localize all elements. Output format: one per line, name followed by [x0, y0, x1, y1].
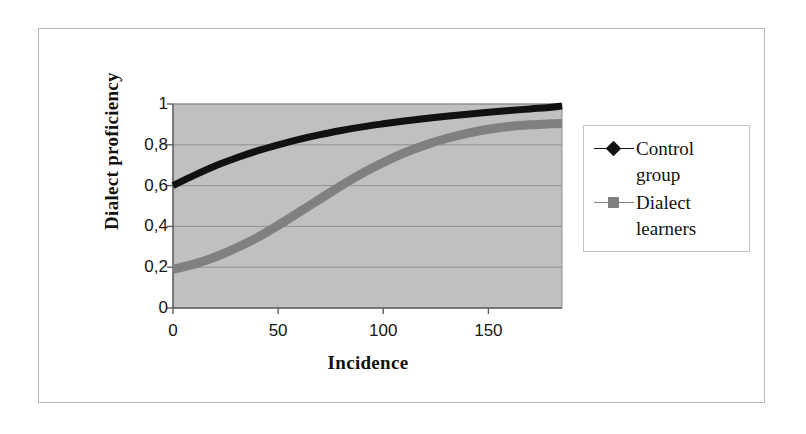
diamond-marker-icon: [606, 141, 622, 157]
legend-key-control-group: [592, 139, 636, 159]
square-marker-icon: [608, 197, 619, 208]
legend-label-dialect-learners: Dialectlearners: [636, 190, 696, 241]
x-tick-label: 50: [248, 322, 308, 339]
legend-entry-control-group[interactable]: Controlgroup: [592, 136, 744, 187]
legend-label-control-group: Controlgroup: [636, 136, 694, 187]
chart-legend: Controlgroup Dialectlearners: [583, 125, 750, 252]
x-tick-label: 100: [353, 322, 413, 339]
x-tick-label: 150: [458, 322, 518, 339]
legend-entry-dialect-learners[interactable]: Dialectlearners: [592, 190, 744, 241]
x-tick-label: 0: [143, 322, 203, 339]
legend-key-dialect-learners: [592, 193, 636, 213]
